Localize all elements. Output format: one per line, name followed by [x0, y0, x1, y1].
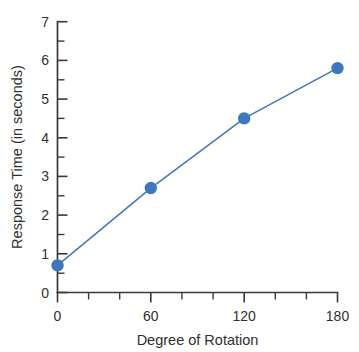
y-tick-label: 2	[41, 207, 49, 223]
x-tick-label: 0	[54, 308, 62, 324]
x-tick-label: 120	[233, 308, 257, 324]
y-axis-title: Response Time (in seconds)	[9, 65, 25, 249]
y-tick-label: 0	[41, 285, 49, 301]
x-axis-tick-labels: 0 60 120 180	[54, 308, 350, 324]
y-tick-label: 1	[41, 246, 49, 262]
y-tick-label: 4	[41, 130, 49, 146]
x-tick-label: 180	[326, 308, 350, 324]
response-time-line-chart: 0 1 2 3 4 5 6 7 0 60 1	[0, 0, 359, 352]
y-axis-minor-ticks	[58, 41, 65, 273]
y-tick-label: 3	[41, 168, 49, 184]
x-axis-title: Degree of Rotation	[137, 332, 259, 348]
y-axis-tick-labels: 0 1 2 3 4 5 6 7	[41, 14, 49, 301]
y-tick-label: 7	[41, 14, 49, 30]
data-point	[331, 62, 343, 74]
response-time-series-markers	[51, 62, 343, 272]
y-tick-label: 5	[41, 91, 49, 107]
response-time-series-line	[58, 68, 338, 265]
data-point	[145, 182, 157, 194]
chart-canvas: 0 1 2 3 4 5 6 7 0 60 1	[0, 0, 359, 352]
data-point	[51, 259, 63, 271]
x-axis-major-ticks	[58, 293, 338, 303]
y-tick-label: 6	[41, 52, 49, 68]
x-axis-minor-ticks	[89, 293, 307, 300]
data-point	[238, 112, 250, 124]
x-tick-label: 60	[143, 308, 159, 324]
